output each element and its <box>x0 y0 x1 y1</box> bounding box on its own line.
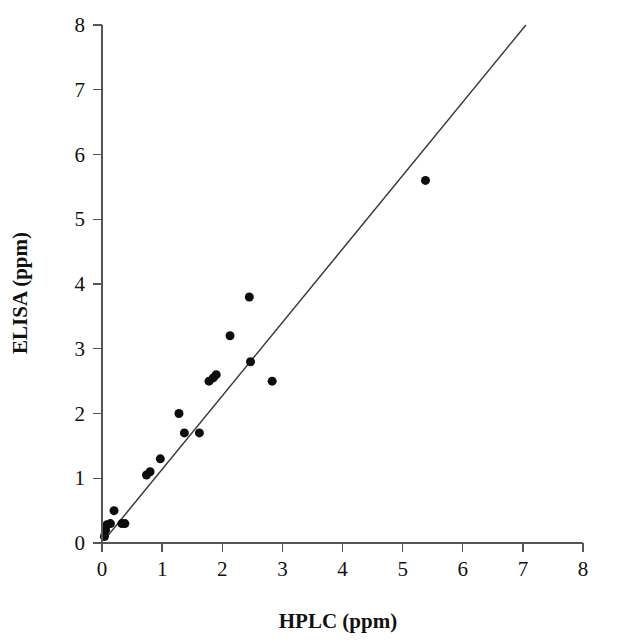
regression-line <box>105 25 526 539</box>
y-axis-title: ELISA (ppm) <box>8 232 32 354</box>
data-point <box>180 428 189 437</box>
x-tick-labels: 012345678 <box>97 557 589 581</box>
y-tick-label-1: 1 <box>75 466 86 490</box>
data-point <box>106 519 115 528</box>
y-tick-label-0: 0 <box>75 531 86 555</box>
data-point <box>156 454 165 463</box>
data-point <box>268 377 277 386</box>
data-point <box>212 370 221 379</box>
x-tick-label-7: 7 <box>518 557 529 581</box>
data-point <box>110 506 119 515</box>
x-tick-label-2: 2 <box>217 557 228 581</box>
data-point <box>146 467 155 476</box>
axes-group <box>102 25 583 543</box>
y-tick-label-6: 6 <box>75 143 86 167</box>
y-tick-label-4: 4 <box>75 272 86 296</box>
x-tick-label-6: 6 <box>458 557 469 581</box>
data-point <box>195 428 204 437</box>
y-tick-label-5: 5 <box>75 207 86 231</box>
figure-container: 012345678 012345678 HPLC (ppm) ELISA (pp… <box>0 0 629 643</box>
y-tick-label-3: 3 <box>75 337 86 361</box>
x-tick-label-1: 1 <box>157 557 168 581</box>
y-tick-label-2: 2 <box>75 402 86 426</box>
data-point <box>120 519 129 528</box>
regression-line-segment <box>105 25 526 539</box>
x-tick-label-8: 8 <box>578 557 589 581</box>
x-tick-label-3: 3 <box>277 557 288 581</box>
data-point <box>421 176 430 185</box>
data-point <box>174 409 183 418</box>
x-tick-label-4: 4 <box>337 557 348 581</box>
tick-marks-group <box>93 25 583 552</box>
x-axis-title: HPLC (ppm) <box>279 609 397 633</box>
y-tick-label-7: 7 <box>75 78 86 102</box>
scatter-plot: 012345678 012345678 HPLC (ppm) ELISA (pp… <box>0 0 629 643</box>
y-tick-labels: 012345678 <box>75 13 86 555</box>
x-tick-label-5: 5 <box>397 557 408 581</box>
data-point <box>246 357 255 366</box>
data-point <box>226 331 235 340</box>
data-point <box>245 292 254 301</box>
data-points-group <box>100 176 430 541</box>
y-tick-label-8: 8 <box>75 13 86 37</box>
x-tick-label-0: 0 <box>97 557 108 581</box>
